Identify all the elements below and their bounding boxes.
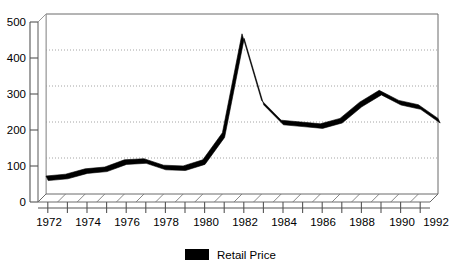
legend-swatch-retail-price bbox=[185, 249, 209, 260]
plot-floor-3d bbox=[38, 194, 438, 202]
x-tick-label-1990: 1990 bbox=[389, 216, 415, 228]
x-tick-label-1976: 1976 bbox=[114, 216, 140, 228]
x-tick-label-1992: 1992 bbox=[423, 216, 449, 228]
x-tick-label-1986: 1986 bbox=[310, 216, 336, 228]
legend: Retail Price bbox=[185, 249, 276, 261]
y-tick-label-400: 400 bbox=[7, 52, 26, 64]
y-tick-labels: 500 400 300 200 100 0 bbox=[7, 16, 26, 208]
x-tick-label-1982: 1982 bbox=[232, 216, 258, 228]
x-axis bbox=[38, 202, 430, 213]
chart-canvas: 500 400 300 200 100 0 bbox=[0, 0, 462, 266]
x-tick-label-1980: 1980 bbox=[193, 216, 219, 228]
x-tick-label-1972: 1972 bbox=[36, 216, 62, 228]
x-tick-label-1978: 1978 bbox=[153, 216, 179, 228]
y-tick-label-0: 0 bbox=[20, 196, 26, 208]
x-tick-label-1988: 1988 bbox=[349, 216, 375, 228]
legend-label-retail-price: Retail Price bbox=[217, 249, 276, 261]
y-tick-label-200: 200 bbox=[7, 124, 26, 136]
x-tick-label-1974: 1974 bbox=[75, 216, 101, 228]
y-tick-label-100: 100 bbox=[7, 160, 26, 172]
y-tick-label-500: 500 bbox=[7, 16, 26, 28]
x-tick-labels: 1972 1974 1976 1978 1980 1982 1984 1986 … bbox=[36, 216, 449, 228]
retail-price-line-chart: 500 400 300 200 100 0 bbox=[0, 0, 462, 266]
plot-side-wall-3d bbox=[38, 14, 46, 202]
y-tick-label-300: 300 bbox=[7, 88, 26, 100]
x-tick-label-1984: 1984 bbox=[271, 216, 297, 228]
y-axis bbox=[30, 22, 38, 202]
